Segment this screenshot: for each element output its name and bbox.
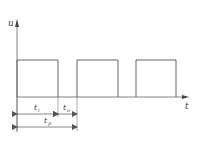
- period-dimension: t p: [17, 116, 77, 127]
- off-time-subscript: o: [67, 107, 70, 113]
- pulse-waveform-diagram: u t t i t o t p: [0, 0, 200, 141]
- pulse-2: [77, 60, 118, 97]
- y-axis-label: u: [8, 18, 14, 28]
- pulse-width-dimension: t i: [17, 103, 58, 114]
- pulse-width-subscript: i: [38, 107, 40, 113]
- x-axis-label: t: [185, 101, 189, 111]
- off-time-dimension: t o: [58, 103, 77, 114]
- period-subscript: p: [48, 120, 52, 127]
- pulse-3: [136, 60, 176, 97]
- x-axis: t: [17, 95, 189, 111]
- pulse-1: [17, 60, 58, 97]
- pulse-train: [17, 60, 176, 97]
